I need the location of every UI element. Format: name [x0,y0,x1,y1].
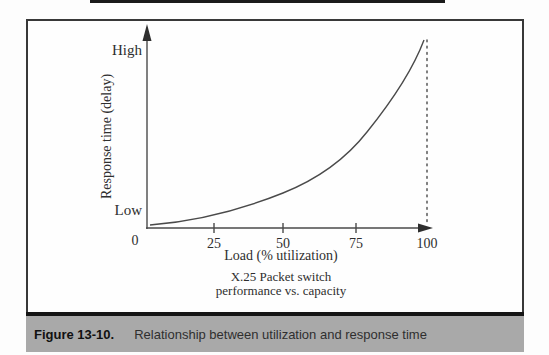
y-axis-title: Response time (delay) [99,47,116,227]
chart-subtitle-line2: performance vs. capacity [181,283,381,299]
scanned-page: High Low Response time (delay) 0 25 50 7… [0,0,549,355]
figure-caption-bar: Figure 13-10. Relationship between utili… [26,316,524,352]
page-top-rule [90,0,445,3]
figure-number-label: Figure 13-10. [34,327,114,342]
x-tick-label-100: 100 [411,236,443,252]
x-tick-label-0: 0 [119,233,151,249]
x-axis-title: Load (% utilization) [181,248,381,264]
figure-caption-text: Relationship between utilization and res… [134,327,427,342]
